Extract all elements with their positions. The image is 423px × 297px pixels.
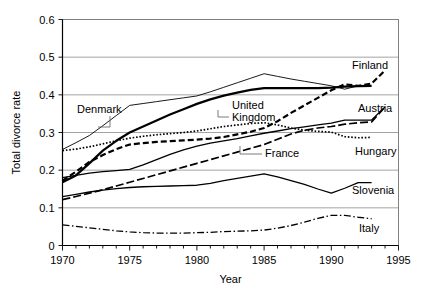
y-tick-label: 0.4: [39, 89, 54, 101]
y-tick-label: 0.2: [39, 164, 54, 176]
x-tick-label: 1975: [117, 254, 141, 266]
series-label-line: United: [232, 99, 264, 111]
x-tick-label: 1970: [50, 254, 74, 266]
series-label-line: Italy: [359, 222, 380, 234]
x-tick-label: 1995: [386, 254, 410, 266]
series-label-italy: Italy: [359, 222, 380, 234]
x-tick-label: 1980: [185, 254, 209, 266]
series-label-line: Slovenia: [352, 184, 395, 196]
y-tick-label: 0.5: [39, 51, 54, 63]
line-chart: 00.10.20.30.40.50.6 19701975198019851990…: [0, 0, 423, 297]
series-label-line: Austria: [358, 102, 393, 114]
x-tick-label: 1985: [252, 254, 276, 266]
series-label-finland: Finland: [352, 59, 388, 71]
series-label-line: Hungary: [355, 145, 397, 157]
chart-figure: 00.10.20.30.40.50.6 19701975198019851990…: [0, 0, 423, 297]
y-tick-label: 0.3: [39, 127, 54, 139]
series-label-slovenia: Slovenia: [352, 184, 395, 196]
series-label-line: France: [265, 147, 299, 159]
y-tick-label: 0: [48, 240, 54, 252]
x-tick-label: 1990: [319, 254, 343, 266]
series-label-line: Denmark: [77, 103, 122, 115]
series-label-line: Kingdom: [232, 111, 275, 123]
y-tick-label: 0.6: [39, 14, 54, 26]
y-tick-label: 0.1: [39, 202, 54, 214]
series-label-austria: Austria: [358, 102, 393, 114]
series-label-denmark: Denmark: [77, 103, 122, 115]
series-label-hungary: Hungary: [355, 145, 397, 157]
series-label-line: Finland: [352, 59, 388, 71]
series-label-france: France: [265, 147, 299, 159]
y-axis-title: Total divorce rate: [10, 91, 22, 175]
x-axis-title: Year: [219, 273, 242, 285]
